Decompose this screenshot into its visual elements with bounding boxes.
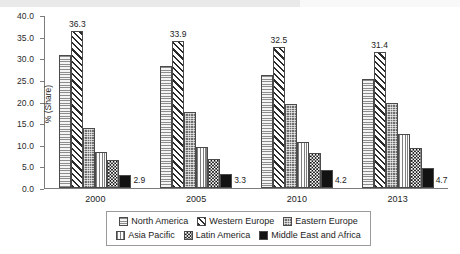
bar-asia-pacific[interactable] (398, 134, 410, 188)
bar-slot (107, 16, 119, 188)
legend-item-asia-pacific[interactable]: Asia Pacific (116, 230, 175, 240)
bar-eastern-europe[interactable] (184, 112, 196, 188)
y-axis-tick-label: 5.0 (22, 162, 34, 172)
y-axis-tick: 0.0 (40, 189, 44, 190)
bar-slot: 33.9 (172, 16, 184, 188)
bar-slot (184, 16, 196, 188)
legend-swatch-latin-america-icon (184, 231, 193, 240)
bar-slot (160, 16, 172, 188)
legend-label: Latin America (196, 230, 251, 240)
y-axis-tick-label: 35.0 (17, 33, 34, 43)
bar-value-label: 3.3 (234, 175, 246, 185)
bar-slot (297, 16, 309, 188)
y-axis-tick: 5.0 (40, 167, 44, 168)
bar-asia-pacific[interactable] (297, 142, 309, 188)
x-axis-tick-label: 2010 (287, 194, 307, 204)
legend-swatch-asia-pacific-icon (116, 231, 125, 240)
legend-label: Asia Pacific (128, 230, 175, 240)
legend-label: North America (131, 216, 188, 226)
bar-middle-east-and-africa[interactable]: 3.3 (220, 174, 232, 188)
bar-latin-america[interactable] (107, 160, 119, 188)
bar-slot (309, 16, 321, 188)
y-axis-tick: 40.0 (40, 16, 44, 17)
legend-row-top: North AmericaWestern EuropeEastern Europ… (111, 214, 366, 228)
bar-middle-east-and-africa[interactable]: 2.9 (119, 175, 131, 188)
y-axis-tick: 15.0 (40, 124, 44, 125)
bar-groups: 36.32.9200033.93.3200532.54.2201031.44.7… (45, 16, 448, 188)
bar-slot: 3.3 (220, 16, 232, 188)
bar-group: 32.54.22010 (247, 16, 348, 188)
bar-slot (83, 16, 95, 188)
window-top-strip (0, 0, 460, 7)
chart-legend: North AmericaWestern EuropeEastern Europ… (106, 211, 371, 246)
bar-group: 33.93.32005 (146, 16, 247, 188)
bar-middle-east-and-africa[interactable]: 4.2 (321, 170, 333, 188)
bar-latin-america[interactable] (410, 148, 422, 188)
legend-swatch-western-europe-icon (197, 217, 206, 226)
legend-item-middle-east-and-africa[interactable]: Middle East and Africa (259, 230, 361, 240)
bar-slot: 36.3 (71, 16, 83, 188)
bar-north-america[interactable] (59, 55, 71, 188)
bar-asia-pacific[interactable] (95, 152, 107, 188)
bar-slot: 4.2 (321, 16, 333, 188)
bar-north-america[interactable] (160, 66, 172, 188)
bar-latin-america[interactable] (208, 159, 220, 188)
bar-western-europe[interactable]: 33.9 (172, 41, 184, 188)
bar-slot: 32.5 (273, 16, 285, 188)
chart-root: 0.05.010.015.020.025.030.035.040.0 % (Sh… (0, 0, 460, 254)
bar-slot (196, 16, 208, 188)
bar-western-europe[interactable]: 32.5 (273, 47, 285, 188)
y-axis-tick-label: 30.0 (17, 54, 34, 64)
legend-item-latin-america[interactable]: Latin America (184, 230, 251, 240)
y-axis-tick-label: 25.0 (17, 76, 34, 86)
x-axis-tick-label: 2000 (85, 194, 105, 204)
legend-swatch-north-america-icon (119, 217, 128, 226)
legend-row-bottom: Asia PacificLatin AmericaMiddle East and… (111, 228, 366, 242)
y-axis-tick: 10.0 (40, 146, 44, 147)
bar-slot (386, 16, 398, 188)
plot-area: 0.05.010.015.020.025.030.035.040.0 % (Sh… (44, 16, 448, 189)
legend-swatch-middle-east-and-africa-icon (259, 231, 268, 240)
legend-label: Middle East and Africa (271, 230, 361, 240)
y-axis-tick-label: 0.0 (22, 184, 34, 194)
legend-swatch-eastern-europe-icon (283, 217, 292, 226)
bar-latin-america[interactable] (309, 153, 321, 188)
legend-item-eastern-europe[interactable]: Eastern Europe (283, 216, 358, 226)
bar-slot (285, 16, 297, 188)
bar-western-europe[interactable]: 36.3 (71, 31, 83, 188)
bar-slot: 4.7 (422, 16, 434, 188)
y-axis-tick-label: 40.0 (17, 11, 34, 21)
bar-slot (59, 16, 71, 188)
bar-slot (410, 16, 422, 188)
y-axis-tick-label: 20.0 (17, 98, 34, 108)
x-axis-tick-label: 2005 (186, 194, 206, 204)
y-axis-tick: 35.0 (40, 38, 44, 39)
bar-value-label: 4.7 (436, 175, 448, 185)
bar-group: 36.32.92000 (45, 16, 146, 188)
legend-label: Western Europe (209, 216, 274, 226)
x-axis-tick-label: 2013 (388, 194, 408, 204)
bar-slot (208, 16, 220, 188)
legend-item-north-america[interactable]: North America (119, 216, 188, 226)
legend-label: Eastern Europe (295, 216, 358, 226)
y-axis-tick: 25.0 (40, 81, 44, 82)
bar-slot (398, 16, 410, 188)
bar-middle-east-and-africa[interactable]: 4.7 (422, 168, 434, 188)
bar-slot: 31.4 (374, 16, 386, 188)
y-axis-tick-label: 15.0 (17, 119, 34, 129)
y-axis-tick: 30.0 (40, 59, 44, 60)
bar-asia-pacific[interactable] (196, 147, 208, 188)
bar-eastern-europe[interactable] (386, 103, 398, 188)
bar-value-label: 2.9 (133, 175, 145, 185)
x-axis-line (44, 188, 448, 189)
bar-western-europe[interactable]: 31.4 (374, 52, 386, 188)
bar-north-america[interactable] (362, 79, 374, 188)
bar-slot: 2.9 (119, 16, 131, 188)
bar-group: 31.44.72013 (347, 16, 448, 188)
bar-eastern-europe[interactable] (285, 104, 297, 188)
legend-item-western-europe[interactable]: Western Europe (197, 216, 274, 226)
bar-slot (95, 16, 107, 188)
bar-value-label: 4.2 (335, 175, 347, 185)
bar-eastern-europe[interactable] (83, 128, 95, 188)
bar-north-america[interactable] (261, 75, 273, 188)
